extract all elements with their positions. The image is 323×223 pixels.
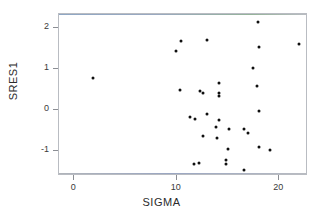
x-tick-label: 10	[171, 182, 181, 192]
y-tick-mark	[53, 27, 58, 28]
x-tick-mark	[278, 175, 279, 180]
data-point	[255, 85, 258, 88]
data-point	[257, 45, 260, 48]
x-tick-mark	[176, 175, 177, 180]
x-tick-label: 0	[71, 182, 76, 192]
data-point	[225, 163, 228, 166]
plot-area-frame	[58, 13, 307, 175]
x-tick-mark	[73, 175, 74, 180]
y-tick-mark	[53, 109, 58, 110]
data-point	[243, 127, 246, 130]
data-point	[251, 66, 254, 69]
data-point	[257, 145, 260, 148]
y-tick-label: 0	[44, 104, 49, 113]
data-point	[198, 162, 201, 165]
data-point	[217, 82, 220, 85]
data-point	[243, 168, 246, 171]
data-point	[179, 39, 182, 42]
data-point	[214, 126, 217, 129]
x-tick-label: 20	[273, 182, 283, 192]
data-point	[194, 117, 197, 120]
data-point	[174, 50, 177, 53]
y-tick-label: -1	[41, 145, 49, 154]
data-point	[257, 109, 260, 112]
y-axis-title: SRES1	[7, 46, 19, 116]
data-point	[91, 76, 94, 79]
data-point	[199, 90, 202, 93]
data-point	[205, 39, 208, 42]
data-point	[217, 119, 220, 122]
data-point	[269, 149, 272, 152]
y-tick-label: 1	[44, 63, 49, 72]
data-point	[256, 20, 259, 23]
data-point	[202, 135, 205, 138]
frame-top-edge	[59, 14, 306, 15]
data-point	[189, 115, 192, 118]
x-axis-title: SIGMA	[0, 196, 323, 208]
y-tick-mark	[53, 68, 58, 69]
data-point	[215, 136, 218, 139]
scatter-plot-figure: -1012 01020 SIGMA SRES1	[0, 0, 323, 223]
data-point	[246, 131, 249, 134]
data-points-layer	[59, 14, 306, 174]
data-point	[178, 89, 181, 92]
data-point	[217, 92, 220, 95]
data-point	[202, 92, 205, 95]
data-point	[205, 113, 208, 116]
y-tick-label: 2	[44, 22, 49, 31]
data-point	[225, 159, 228, 162]
data-point	[193, 162, 196, 165]
y-tick-mark	[53, 150, 58, 151]
frame-bottom-edge	[59, 173, 306, 174]
data-point	[297, 42, 300, 45]
data-point	[227, 148, 230, 151]
data-point	[228, 127, 231, 130]
data-point	[217, 95, 220, 98]
